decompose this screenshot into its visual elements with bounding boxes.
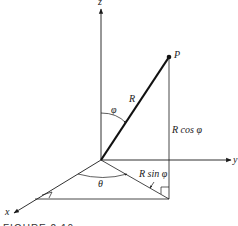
x-axis — [14, 160, 101, 213]
radius-label: R — [128, 93, 135, 104]
r-sin-phi-pointer — [150, 182, 154, 188]
theta-label: θ — [98, 178, 103, 189]
point-p-label: P — [173, 49, 180, 60]
right-angle-marker-foot — [161, 187, 169, 194]
r-cos-phi-label: R cos φ — [171, 124, 202, 135]
x-axis-label: x — [4, 206, 10, 217]
horizontal-projection-line — [101, 160, 169, 199]
phi-label: φ — [111, 104, 117, 115]
z-axis-label: z — [97, 0, 102, 7]
spherical-coordinates-diagram: z y x P R φ θ R cos φ R sin φ FIGURE 2.1… — [0, 0, 238, 226]
theta-angle-arc — [78, 174, 127, 178]
r-sin-phi-label: R sin φ — [138, 168, 168, 179]
figure-caption: FIGURE 2.10 — [3, 223, 74, 226]
y-axis-label: y — [232, 154, 238, 165]
